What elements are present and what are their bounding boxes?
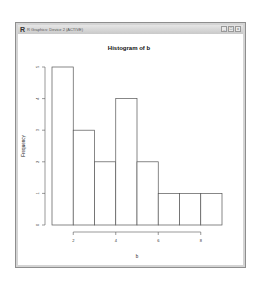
x-axis-label: b <box>136 254 139 259</box>
y-tick-label: 0 <box>35 223 40 226</box>
bars <box>52 67 222 225</box>
y-axis-label: Frequency <box>21 135 26 157</box>
histogram-bar <box>95 162 116 225</box>
x-tick-label: 4 <box>115 238 118 243</box>
x-tick-label: 6 <box>157 238 160 243</box>
histogram-bar <box>116 99 137 225</box>
y-tick-label: 3 <box>35 128 40 131</box>
x-tick-label: 2 <box>72 238 75 243</box>
y-tick-label: 5 <box>35 65 40 68</box>
x-axis: 2468 <box>72 232 203 243</box>
histogram-bar <box>201 193 222 225</box>
histogram-bar <box>137 162 158 225</box>
x-tick-label: 8 <box>200 238 203 243</box>
y-tick-label: 1 <box>35 192 40 195</box>
y-tick-label: 2 <box>35 160 40 163</box>
histogram-bar <box>158 193 179 225</box>
histogram-bar <box>52 67 73 225</box>
chart-title: Histogram of b <box>108 45 151 51</box>
histogram-bar <box>73 130 94 225</box>
y-axis: 012345 <box>35 65 45 226</box>
y-tick-label: 4 <box>35 97 40 100</box>
histogram-plot: Histogram of b 012345 2468 Frequency b <box>0 0 258 284</box>
histogram-bar <box>180 193 201 225</box>
